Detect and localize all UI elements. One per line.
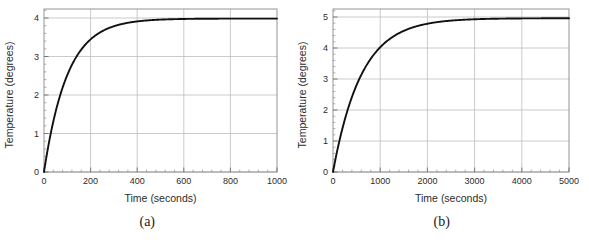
x-tick-label: 1000 — [267, 176, 287, 186]
subfigure-a: 0 200 400 600 800 1000 0 1 2 3 4 Time (s… — [0, 0, 295, 245]
grid-vertical-b — [380, 9, 522, 172]
plot-b: 0 1000 2000 3000 4000 5000 0 1 2 3 4 5 — [295, 0, 589, 212]
plot-frame-a — [44, 9, 277, 172]
chart-b-svg: 0 1000 2000 3000 4000 5000 0 1 2 3 4 5 — [295, 0, 589, 212]
y-tick-label: 4 — [322, 43, 327, 53]
y-tick-label: 0 — [322, 167, 327, 177]
x-tick-label: 0 — [330, 176, 335, 186]
y-axis-title-a: Temperature (degrees) — [3, 42, 15, 149]
y-tick-label: 2 — [34, 90, 39, 100]
x-major-ticks-b — [333, 168, 569, 173]
x-axis-title-b: Time (seconds) — [415, 192, 487, 204]
x-major-ticks-a — [44, 168, 277, 173]
grid-horizontal-b — [333, 17, 569, 172]
x-tick-label: 800 — [223, 176, 238, 186]
subfigure-caption-a: (a) — [0, 214, 295, 230]
y-tick-label: 1 — [322, 136, 327, 146]
x-tick-label: 2000 — [417, 176, 437, 186]
subfigure-b: 0 1000 2000 3000 4000 5000 0 1 2 3 4 5 — [295, 0, 589, 245]
figure-container: 0 200 400 600 800 1000 0 1 2 3 4 Time (s… — [0, 0, 589, 245]
grid-horizontal-a — [44, 18, 277, 172]
subfigure-caption-b: (b) — [295, 214, 589, 230]
x-tick-labels-a: 0 200 400 600 800 1000 — [41, 176, 287, 186]
y-minor-ticks-a — [44, 10, 46, 164]
plot-frame-b — [333, 9, 569, 172]
y-axis-title-b: Temperature (degrees) — [296, 42, 308, 149]
data-curve-b — [333, 18, 569, 172]
y-tick-label: 3 — [322, 74, 327, 84]
x-tick-label: 200 — [83, 176, 98, 186]
y-tick-label: 1 — [34, 129, 39, 139]
y-tick-labels-a: 0 1 2 3 4 — [34, 13, 39, 177]
x-tick-label: 1000 — [370, 176, 390, 186]
y-tick-label: 4 — [34, 13, 39, 23]
chart-a-svg: 0 200 400 600 800 1000 0 1 2 3 4 Time (s… — [0, 0, 295, 212]
plot-a: 0 200 400 600 800 1000 0 1 2 3 4 Time (s… — [0, 0, 295, 212]
x-tick-label: 4000 — [511, 176, 531, 186]
x-tick-label: 0 — [41, 176, 46, 186]
grid-vertical-a — [91, 9, 231, 172]
y-tick-label: 3 — [34, 52, 39, 62]
x-tick-label: 3000 — [464, 176, 484, 186]
y-tick-labels-b: 0 1 2 3 4 5 — [322, 12, 327, 177]
y-tick-label: 5 — [322, 12, 327, 22]
x-axis-title-a: Time (seconds) — [125, 192, 197, 204]
y-tick-label: 0 — [34, 167, 39, 177]
x-tick-label: 400 — [130, 176, 145, 186]
x-tick-label: 600 — [176, 176, 191, 186]
x-tick-labels-b: 0 1000 2000 3000 4000 5000 — [330, 176, 579, 186]
x-tick-label: 5000 — [558, 176, 578, 186]
y-tick-label: 2 — [322, 105, 327, 115]
